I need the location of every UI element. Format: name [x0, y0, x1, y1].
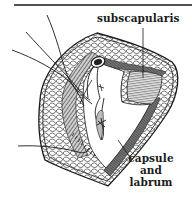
label-capsule-line1: capsule: [128, 152, 174, 164]
label-capsule-line2: and: [128, 164, 174, 176]
label-subscapularis: subscapularis: [97, 12, 180, 24]
label-capsule-line3: labrum: [128, 176, 174, 188]
label-capsule-and-labrum: capsule and labrum: [128, 152, 174, 188]
